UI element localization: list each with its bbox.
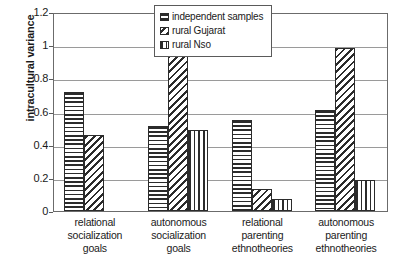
bar (148, 126, 168, 211)
x-category-label: relationalsocializationgoals (53, 216, 137, 274)
x-category-label-line: relational (221, 216, 305, 229)
legend-item: rural Gujarat (160, 24, 265, 38)
x-category-label-line: autonomous (137, 216, 221, 229)
legend-swatch-icon (160, 41, 169, 49)
x-category-label: autonomousparentingethnotheories (304, 216, 388, 274)
x-category-label-line: parenting (221, 229, 305, 242)
y-tick-label: 0.4 (20, 140, 48, 151)
y-axis-tick-labels: 00.20.40.60.811.2 (16, 0, 48, 277)
legend-label: independent samples (172, 12, 263, 22)
x-category-label-line: autonomous (304, 216, 388, 229)
legend: independent samplesrural Gujaratrural Ns… (154, 5, 272, 57)
x-category-label-line: goals (137, 242, 221, 255)
bar (355, 180, 375, 212)
bar (168, 45, 188, 211)
legend-swatch-icon (160, 13, 169, 21)
x-category-label-line: goals (53, 242, 137, 255)
x-category-label: autonomoussocializationgoals (137, 216, 221, 274)
bar (188, 130, 208, 211)
x-category-label-line: socialization (53, 229, 137, 242)
y-tick-label: 1 (20, 40, 48, 51)
y-tick-label: 0.2 (20, 173, 48, 184)
x-category-label-line: ethnotheories (304, 242, 388, 255)
y-tick-label: 0.8 (20, 73, 48, 84)
x-category-label: relationalparentingethnotheories (221, 216, 305, 274)
y-tick-label: 1.2 (20, 7, 48, 18)
legend-label: rural Nso (172, 40, 211, 50)
y-tick-label: 0.6 (20, 107, 48, 118)
bar-chart: intracultural variance 00.20.40.60.811.2… (0, 0, 396, 277)
bar (315, 110, 335, 211)
bar (232, 120, 252, 211)
x-category-label-line: socialization (137, 229, 221, 242)
legend-label: rural Gujarat (172, 26, 225, 36)
x-category-label-line: parenting (304, 229, 388, 242)
legend-item: independent samples (160, 10, 265, 24)
y-tick-label: 0 (20, 206, 48, 217)
legend-item: rural Nso (160, 38, 265, 52)
x-category-label-line: ethnotheories (221, 242, 305, 255)
legend-swatch-icon (160, 27, 169, 35)
x-category-label-line: relational (53, 216, 137, 229)
x-axis-category-labels: relationalsocializationgoalsautonomousso… (53, 216, 388, 274)
bar (252, 189, 272, 211)
bar (84, 135, 104, 211)
bar (335, 48, 355, 211)
bar (272, 199, 292, 211)
y-tick-mark (49, 212, 53, 213)
bar (64, 92, 84, 211)
